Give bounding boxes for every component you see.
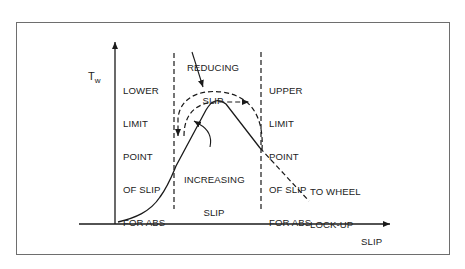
- reducing-slip-line-2: SLIP: [183, 95, 243, 106]
- y-axis-label-main: T: [88, 70, 95, 82]
- upper-limit-line-1: UPPER: [269, 85, 311, 96]
- upper-limit-label: UPPER LIMIT POINT OF SLIP FOR ABS: [269, 63, 311, 239]
- increasing-slip-line-1: INCREASING: [184, 174, 244, 185]
- y-axis-label: Tw: [88, 70, 101, 85]
- upper-limit-line-5: FOR ABS: [269, 217, 311, 228]
- wheel-lockup-line-1: TO WHEEL: [310, 186, 361, 197]
- lower-limit-label: LOWER LIMIT POINT OF SLIP FOR ABS: [123, 63, 165, 239]
- increasing-slip-line-2: SLIP: [184, 207, 244, 218]
- lower-limit-line-4: OF SLIP: [123, 184, 165, 195]
- increasing-slip-label: INCREASING SLIP: [184, 152, 244, 229]
- increasing-slip-leader: [194, 121, 211, 147]
- y-axis-label-subscript: w: [95, 76, 101, 85]
- lower-limit-line-1: LOWER: [123, 85, 165, 96]
- lower-limit-line-2: LIMIT: [123, 118, 165, 129]
- wheel-lockup-label: TO WHEEL LOCK-UP: [310, 164, 361, 241]
- lower-limit-line-3: POINT: [123, 151, 165, 162]
- x-axis-label: SLIP: [361, 236, 382, 247]
- upper-limit-line-4: OF SLIP: [269, 184, 311, 195]
- wheel-lockup-line-2: LOCK-UP: [310, 219, 361, 230]
- reducing-slip-line-1: REDUCING: [183, 62, 243, 73]
- reducing-slip-label: REDUCING SLIP: [183, 40, 243, 117]
- upper-limit-line-2: LIMIT: [269, 118, 311, 129]
- upper-limit-line-3: POINT: [269, 151, 311, 162]
- lower-limit-line-5: FOR ABS: [123, 217, 165, 228]
